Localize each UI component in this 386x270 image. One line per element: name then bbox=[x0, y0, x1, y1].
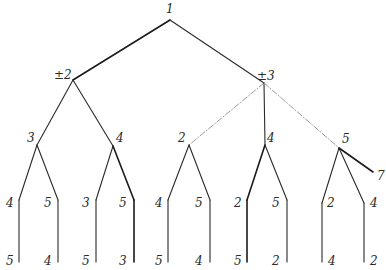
tree-node-label: 5 bbox=[82, 254, 90, 268]
tree-node-label: 4 bbox=[194, 254, 203, 268]
tree-edge bbox=[189, 83, 264, 145]
tree-node-label: 5 bbox=[155, 254, 163, 268]
tree-node-label: ±2 bbox=[54, 68, 72, 82]
tree-edges bbox=[19, 20, 373, 262]
tree-node-label: 1 bbox=[166, 2, 174, 16]
tree-node-label: 2 bbox=[177, 131, 186, 145]
tree-node-label: 5 bbox=[195, 196, 203, 210]
tree-node-label: 3 bbox=[82, 196, 90, 210]
tree-node-label: 2 bbox=[233, 196, 242, 210]
tree-edge bbox=[265, 145, 287, 200]
tree-edge bbox=[73, 80, 113, 146]
tree-node-label: 2 bbox=[326, 196, 335, 210]
tree-edge bbox=[37, 80, 73, 145]
tree-edge bbox=[73, 20, 170, 80]
tree-node-label: ±3 bbox=[257, 69, 275, 83]
tree-edge bbox=[189, 145, 210, 200]
tree-diagram: 1±2±334245453545252475453545242 bbox=[0, 0, 386, 270]
tree-node-label: 5 bbox=[272, 196, 280, 210]
tree-node-label: 5 bbox=[6, 254, 14, 268]
tree-node-label: 4 bbox=[5, 196, 14, 210]
tree-edge bbox=[264, 83, 339, 148]
tree-edge bbox=[247, 145, 265, 200]
tree-edge bbox=[322, 148, 339, 203]
tree-node-label: 4 bbox=[43, 254, 52, 268]
tree-edge bbox=[170, 20, 264, 83]
tree-edge bbox=[264, 83, 265, 145]
tree-node-label: 5 bbox=[119, 196, 127, 210]
tree-node-label: 4 bbox=[369, 196, 378, 210]
tree-node-label: 3 bbox=[119, 254, 127, 268]
tree-node-label: 7 bbox=[377, 169, 385, 183]
tree-node-label: 3 bbox=[27, 131, 35, 145]
tree-node-labels: 1±2±334245453545252475453545242 bbox=[5, 2, 385, 268]
tree-node-label: 4 bbox=[115, 131, 124, 145]
tree-edge bbox=[19, 145, 37, 200]
tree-node-label: 5 bbox=[234, 254, 242, 268]
tree-node-label: 4 bbox=[266, 131, 275, 145]
tree-edge bbox=[96, 146, 113, 200]
tree-node-label: 5 bbox=[342, 132, 350, 146]
tree-edge bbox=[168, 145, 189, 200]
tree-node-label: 2 bbox=[369, 254, 378, 268]
tree-edge bbox=[113, 146, 134, 200]
tree-node-label: 2 bbox=[271, 254, 280, 268]
tree-edge bbox=[37, 145, 58, 200]
tree-node-label: 4 bbox=[154, 196, 163, 210]
tree-node-label: 5 bbox=[44, 196, 52, 210]
tree-node-label: 4 bbox=[327, 254, 336, 268]
